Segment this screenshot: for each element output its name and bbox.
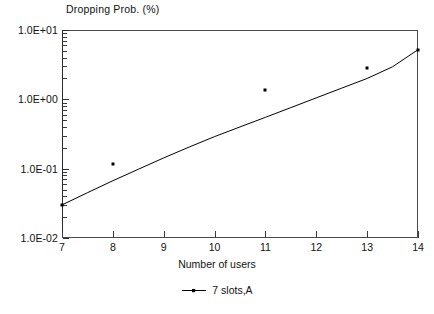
data-point-1 (111, 163, 114, 166)
data-point-0 (61, 203, 64, 206)
y-tick-label-0: 1.0E+01 (18, 24, 58, 36)
chart-legend: 7 slots,A (0, 284, 434, 296)
x-tick-7 (418, 231, 419, 238)
x-tick-label-3: 10 (209, 241, 221, 253)
x-tick-label-4: 11 (260, 241, 271, 253)
data-point-2 (264, 89, 267, 92)
y-tick-label-2: 1.0E-01 (21, 163, 58, 175)
legend-label-0: 7 slots,A (212, 284, 252, 296)
chart-figure: Dropping Prob. (%) 1.0E+011.0E+001.0E-01… (0, 0, 434, 314)
y-tick-label-1: 1.0E+00 (18, 93, 58, 105)
data-point-3 (366, 67, 369, 70)
y-major-tick-3 (63, 238, 69, 239)
data-point-4 (417, 48, 420, 51)
x-tick-label-5: 12 (310, 241, 322, 253)
series-curve-7-slots-a (62, 30, 418, 238)
x-tick-label-1: 8 (110, 241, 116, 253)
chart-title: Dropping Prob. (%) (66, 3, 159, 15)
x-tick-label-7: 14 (412, 241, 424, 253)
x-tick-label-0: 7 (59, 241, 65, 253)
x-tick-label-2: 9 (161, 241, 167, 253)
y-tick-label-3: 1.0E-02 (21, 232, 58, 244)
legend-line-marker-icon (181, 286, 207, 295)
x-tick-label-6: 13 (361, 241, 373, 253)
x-axis-title: Number of users (0, 258, 434, 270)
plot-area (62, 30, 418, 238)
